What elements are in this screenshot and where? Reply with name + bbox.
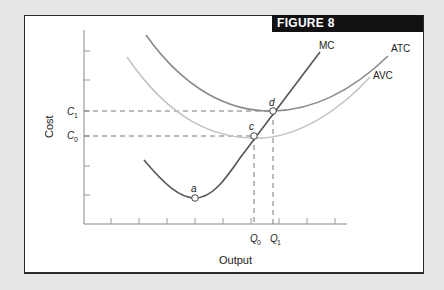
q1-tick-label: Q 1 [270,233,281,246]
point-c-label: c [249,121,254,132]
avc-label: AVC [373,70,393,81]
q0-tick-label: Q 0 [250,233,261,246]
point-d-marker [270,108,277,115]
svg-text:1: 1 [277,239,281,246]
c1-tick-label: C 1 [67,106,78,119]
x-axis [84,218,347,224]
svg-text:0: 0 [74,136,78,143]
point-a-label: a [191,183,197,194]
y-axis [84,30,90,224]
c0-tick-label: C 0 [67,130,78,143]
atc-label: ATC [391,43,410,54]
svg-text:1: 1 [74,112,78,119]
guide-lines [84,111,273,224]
mc-curve [144,52,320,198]
cost-curves-chart: a c d MC ATC AVC C 1 C 0 Q 0 Q 1 Output … [0,0,444,290]
y-axis-title: Cost [43,115,55,138]
x-axis-title: Output [219,254,252,266]
point-a-marker [192,195,199,202]
mc-label: MC [319,40,335,51]
atc-curve [146,35,388,111]
svg-text:0: 0 [257,239,261,246]
point-c-marker [251,133,258,140]
point-d-label: d [269,97,275,108]
